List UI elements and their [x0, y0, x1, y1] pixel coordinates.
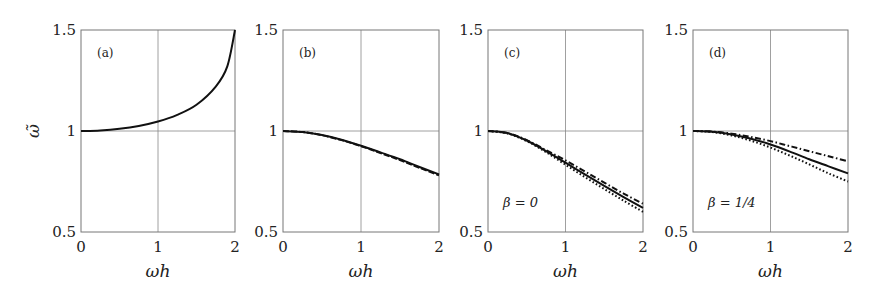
y-tick-label: 1.5 [52, 21, 76, 39]
panel-b: 0.511.5012ωh(b) [254, 21, 444, 281]
x-tick-label: 0 [76, 238, 86, 256]
y-tick-label: 0.5 [52, 223, 76, 241]
y-tick-label: 1 [473, 122, 483, 140]
x-tick-label: 2 [843, 238, 853, 256]
panel-c: 0.511.5012ωh(c)β = 0 [459, 21, 648, 281]
x-tick-label: 1 [153, 238, 163, 256]
y-axis-label: ω̃ [23, 124, 43, 138]
x-tick-label: 1 [766, 238, 776, 256]
x-tick-label: 2 [638, 238, 648, 256]
panel-d: 0.511.5012ωh(d)β = 1/4 [664, 21, 853, 281]
x-axis-label: ωh [553, 261, 578, 281]
y-tick-label: 1 [66, 122, 76, 140]
x-axis-label: ωh [758, 261, 783, 281]
panel-label: (c) [504, 46, 520, 60]
y-tick-label: 1.5 [664, 21, 688, 39]
y-tick-label: 0.5 [459, 223, 483, 241]
x-tick-label: 0 [483, 238, 493, 256]
x-tick-label: 2 [434, 238, 444, 256]
x-axis-label: ωh [349, 261, 374, 281]
x-tick-label: 0 [688, 238, 698, 256]
y-tick-label: 1 [678, 122, 688, 140]
beta-annotation: β = 1/4 [707, 195, 756, 210]
panel-label: (d) [709, 46, 726, 60]
y-tick-label: 1.5 [459, 21, 483, 39]
y-tick-label: 0.5 [254, 223, 278, 241]
x-tick-label: 1 [561, 238, 571, 256]
y-tick-label: 1.5 [254, 21, 278, 39]
x-axis-label: ωh [146, 261, 171, 281]
x-tick-label: 1 [356, 238, 366, 256]
x-tick-label: 2 [230, 238, 240, 256]
panel-label: (b) [299, 46, 316, 60]
panel-a: 0.511.5012ωh(a) [52, 21, 240, 281]
beta-annotation: β = 0 [502, 195, 538, 210]
panel-label: (a) [97, 46, 114, 60]
figure-four-panels: 0.511.5012ωh(a)0.511.5012ωh(b)0.511.5012… [0, 0, 878, 299]
x-tick-label: 0 [278, 238, 288, 256]
y-tick-label: 1 [268, 122, 278, 140]
y-tick-label: 0.5 [664, 223, 688, 241]
